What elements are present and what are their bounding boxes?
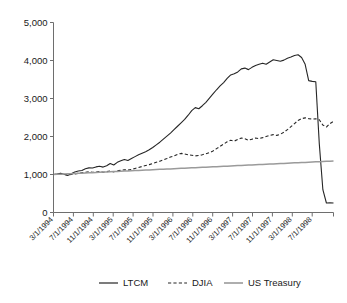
y-axis-tick-label: 1,000 xyxy=(24,169,48,180)
y-axis-tick-label: 5,000 xyxy=(24,17,48,28)
y-axis-tick-label: 2,000 xyxy=(24,131,48,142)
legend-label-ltcm: LTCM xyxy=(123,277,148,288)
y-axis-tick-label: 4,000 xyxy=(24,55,48,66)
series-line-djia xyxy=(54,118,334,175)
series-line-us-treasury xyxy=(54,161,334,174)
y-axis: 01,0002,0003,0004,0005,000 xyxy=(24,17,54,218)
legend-label-djia: DJIA xyxy=(192,277,213,288)
series-layer xyxy=(54,55,334,203)
y-axis-tick-label: 3,000 xyxy=(24,93,48,104)
x-axis: 3/1/19947/1/199411/1/19943/1/19957/1/199… xyxy=(28,213,334,245)
line-chart: 01,0002,0003,0004,0005,000 3/1/19947/1/1… xyxy=(0,0,347,303)
chart-container: 01,0002,0003,0004,0005,000 3/1/19947/1/1… xyxy=(0,0,347,303)
series-line-ltcm xyxy=(54,55,334,203)
chart-legend: LTCMDJIAUS Treasury xyxy=(99,277,301,288)
legend-label-us-treasury: US Treasury xyxy=(248,277,301,288)
